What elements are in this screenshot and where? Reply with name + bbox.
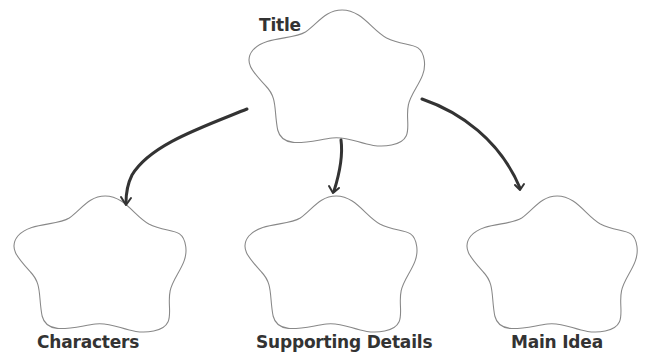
label-title: Title [259,15,301,35]
label-characters: Characters [37,332,139,352]
diagram-canvas [0,0,646,359]
flower-shape-main-idea[interactable] [467,196,637,332]
arrow-to-characters [121,109,247,205]
label-supporting-details: Supporting Details [256,332,432,352]
flower-shape-characters[interactable] [14,196,186,332]
label-main-idea: Main Idea [511,332,603,352]
arrow-to-main-idea [422,99,524,190]
flower-shape-supporting-details[interactable] [245,196,417,332]
arrow-to-supporting-details [329,140,342,193]
